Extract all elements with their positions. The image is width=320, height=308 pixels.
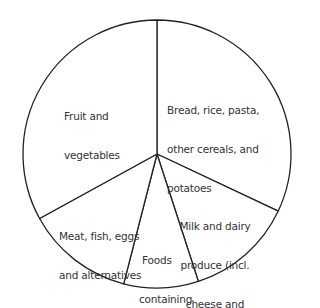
label-line: cheese and [176, 298, 254, 308]
label-line: Bread, rice, pasta, [167, 104, 259, 117]
label-line: and alternatives [59, 269, 139, 282]
label-line: Fruit and [64, 110, 120, 123]
label-bread-rice-pasta: Bread, rice, pasta, other cereals, and p… [167, 78, 259, 208]
label-fruit-vegetables: Fruit and vegetables [64, 84, 120, 175]
label-line: other cereals, and [167, 143, 259, 156]
label-meat-fish-eggs: Meat, fish, eggs and alternatives [59, 204, 139, 295]
label-milk-dairy: Milk and dairy produce (incl. cheese and… [176, 194, 254, 308]
label-line: Meat, fish, eggs [59, 230, 139, 243]
label-line: produce (incl. [176, 259, 254, 272]
label-line: Milk and dairy [176, 220, 254, 233]
label-line: vegetables [64, 149, 120, 162]
